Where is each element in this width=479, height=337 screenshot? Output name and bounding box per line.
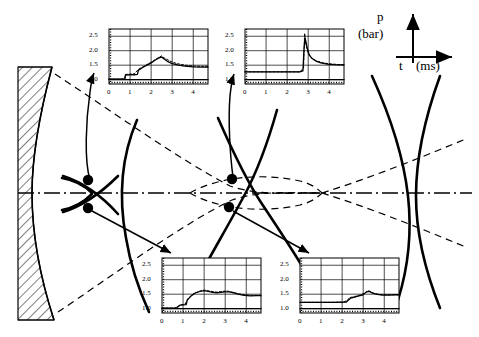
chart-xtick-label: 3 [170,88,174,96]
envelope-upper-converging [55,74,322,193]
chart-top-right [245,29,344,84]
chart-xtick-label: 4 [244,317,248,325]
chart-ytick-label: 1.0 [89,75,98,83]
chart-ytick-label: 2.5 [225,31,234,39]
chart-ytick-label: 2.5 [142,260,151,268]
chart-bottom-right [300,258,399,313]
measurement-point-p1[interactable] [83,175,93,185]
chart-ytick-label: 1.5 [142,289,151,297]
measurement-point-p4[interactable] [224,202,234,212]
leader-p2-to-chart-bottom-left [92,211,171,253]
chart-ytick-label: 2.0 [89,46,98,54]
chart-top-left [109,29,208,84]
envelope-upper-diverging [322,138,468,193]
chart-xtick-label: 2 [285,88,289,96]
time-unit-label: (ms) [416,58,440,74]
chart-xtick-label: 0 [107,88,111,96]
chart-xtick-label: 0 [243,88,247,96]
chart-ytick-label: 2.0 [142,275,151,283]
chart-xtick-label: 1 [128,88,132,96]
wave-focusing-scene [0,0,479,337]
envelope-lower-diverging [322,193,468,248]
chart-ytick-label: 2.0 [280,275,289,283]
chart-xtick-label: 4 [382,317,386,325]
chart-xtick-label: 3 [306,88,310,96]
chart-xtick-label: 2 [202,317,206,325]
chart-ytick-label: 1.5 [280,289,289,297]
chart-ytick-label: 2.0 [225,46,234,54]
chart-ytick-label: 1.5 [89,60,98,68]
leader-p3-to-chart-top-right [229,74,234,177]
chart-bottom-left [162,258,261,313]
pressure-unit-label: (bar) [358,26,383,42]
chart-xtick-label: 1 [264,88,268,96]
caustic-lens-upper [190,177,322,193]
chart-xtick-label: 1 [181,317,185,325]
chart-xtick-label: 0 [298,317,302,325]
chart-xtick-label: 1 [319,317,323,325]
chart-xtick-label: 2 [149,88,153,96]
chart-ytick-label: 2.5 [280,260,289,268]
chart-ytick-label: 2.5 [89,31,98,39]
wavefront-arc-5 [416,76,440,308]
chart-xtick-label: 3 [223,317,227,325]
pressure-symbol-label: p [377,9,384,25]
time-symbol-label: t [399,58,403,74]
charts-layer [109,29,399,313]
wavefront-arc-1 [122,120,149,312]
chart-xtick-label: 2 [340,317,344,325]
chart-ytick-label: 1.5 [225,60,234,68]
chart-ytick-label: 1.0 [142,304,151,312]
chart-ytick-label: 1.0 [225,75,234,83]
axis-legend-group [396,14,452,63]
chart-xtick-label: 0 [160,317,164,325]
figure-canvas: p (bar) t (ms) 1.01.52.02.5012341.01.52.… [0,0,479,337]
leader-p1-to-chart-top-left [86,73,94,180]
chart-xtick-label: 4 [327,88,331,96]
measurement-point-p3[interactable] [227,174,237,184]
chart-ytick-label: 1.0 [280,304,289,312]
chart-xtick-label: 3 [361,317,365,325]
chart-xtick-label: 4 [191,88,195,96]
measurement-point-p2[interactable] [83,203,93,213]
